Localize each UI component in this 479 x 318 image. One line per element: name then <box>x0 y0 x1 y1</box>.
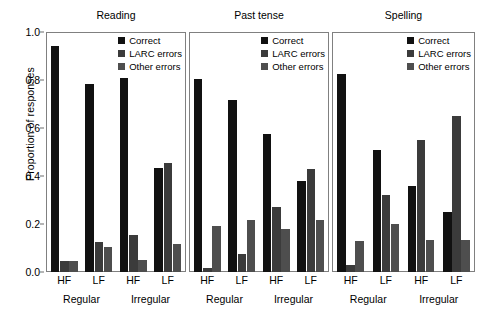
bar <box>95 242 104 272</box>
bar <box>120 78 129 272</box>
x-axis-tick-label: LF <box>162 274 174 286</box>
legend-swatch-icon <box>407 63 414 70</box>
legend-item: Correct <box>407 35 471 47</box>
legend-item: LARC errors <box>407 48 471 60</box>
legend-label: Other errors <box>418 61 469 73</box>
legend-swatch-icon <box>118 50 125 57</box>
bar <box>51 46 60 272</box>
bar <box>203 268 212 272</box>
bar <box>104 247 113 272</box>
x-axis-tick-label: HF <box>126 274 140 286</box>
x-axis-group-label: Irregular <box>419 293 458 305</box>
x-axis-tick-label: LF <box>305 274 317 286</box>
bar <box>408 186 417 272</box>
bar <box>129 235 138 272</box>
bar <box>346 265 355 272</box>
bar <box>212 226 221 272</box>
y-axis-tick-label: 0.4 <box>25 171 40 182</box>
bar <box>461 240 470 272</box>
bar <box>443 212 452 272</box>
x-axis-group-label: Regular <box>350 293 387 305</box>
legend-item: Correct <box>118 35 182 47</box>
bar <box>307 169 316 272</box>
x-axis-tick-label: LF <box>380 274 392 286</box>
bar <box>164 163 173 272</box>
legend: CorrectLARC errorsOther errors <box>407 35 471 74</box>
legend-item: Correct <box>261 35 325 47</box>
bar <box>238 254 247 272</box>
legend-label: LARC errors <box>129 48 182 60</box>
legend-item: Other errors <box>261 61 325 73</box>
x-axis-tick-label: LF <box>450 274 462 286</box>
bar <box>272 207 281 272</box>
bar <box>69 261 78 272</box>
legend-swatch-icon <box>261 50 268 57</box>
bar <box>173 244 182 272</box>
legend-label: Correct <box>129 35 160 47</box>
x-axis: HFLFHFLFRegularIrregular <box>46 274 186 318</box>
legend-label: Correct <box>272 35 303 47</box>
bar <box>138 260 147 272</box>
y-axis-tick-label: 0.6 <box>25 123 40 134</box>
legend-swatch-icon <box>118 63 125 70</box>
y-axis-tick-mark <box>40 32 44 33</box>
x-axis-tick-label: HF <box>269 274 283 286</box>
chart-panel: SpellingCorrectLARC errorsOther errors <box>332 32 475 272</box>
y-axis-tick-label: 0.8 <box>25 75 40 86</box>
x-axis-group-label: Irregular <box>131 293 170 305</box>
bar <box>281 229 290 272</box>
bar <box>355 241 364 272</box>
x-axis-tick-label: HF <box>57 274 71 286</box>
y-axis-tick-label: 0.2 <box>25 219 40 230</box>
bar <box>263 134 272 272</box>
x-axis-group-label: Irregular <box>274 293 313 305</box>
panel-title: Past tense <box>189 9 329 21</box>
bar <box>60 261 69 272</box>
legend-label: Other errors <box>129 61 180 73</box>
bar <box>426 240 435 272</box>
y-axis-tick-mark <box>40 224 44 225</box>
y-axis: 0.00.20.40.60.81.0 <box>0 0 46 318</box>
x-axis: HFLFHFLFRegularIrregular <box>189 274 329 318</box>
bar <box>247 220 256 272</box>
legend-item: Other errors <box>407 61 471 73</box>
legend-item: Other errors <box>118 61 182 73</box>
figure: Proportion of responses 0.00.20.40.60.81… <box>0 0 479 318</box>
legend-item: LARC errors <box>118 48 182 60</box>
legend-label: LARC errors <box>272 48 325 60</box>
legend-label: LARC errors <box>418 48 471 60</box>
y-axis-tick-mark <box>40 80 44 81</box>
bar <box>382 195 391 272</box>
legend-swatch-icon <box>261 63 268 70</box>
x-axis: HFLFHFLFRegularIrregular <box>332 274 475 318</box>
legend-item: LARC errors <box>261 48 325 60</box>
x-axis-group-label: Regular <box>63 293 100 305</box>
legend: CorrectLARC errorsOther errors <box>261 35 325 74</box>
legend-swatch-icon <box>407 37 414 44</box>
x-axis-group-label: Regular <box>206 293 243 305</box>
legend-swatch-icon <box>407 50 414 57</box>
legend-swatch-icon <box>118 37 125 44</box>
bar <box>452 116 461 272</box>
bar <box>337 74 346 272</box>
bar <box>154 168 163 272</box>
bar <box>297 181 306 272</box>
x-axis-tick-label: LF <box>236 274 248 286</box>
x-axis-tick-label: HF <box>344 274 358 286</box>
bar <box>194 79 203 272</box>
x-axis-tick-label: LF <box>93 274 105 286</box>
legend-label: Correct <box>418 35 449 47</box>
bar <box>373 150 382 272</box>
panel-title: Spelling <box>332 9 475 21</box>
y-axis-tick-mark <box>40 176 44 177</box>
bar <box>316 220 325 272</box>
bar <box>228 100 237 272</box>
x-axis-tick-label: HF <box>414 274 428 286</box>
chart-panel: ReadingCorrectLARC errorsOther errors <box>46 32 186 272</box>
panel-title: Reading <box>46 9 186 21</box>
y-axis-tick-label: 0.0 <box>25 267 40 278</box>
bar <box>417 140 426 272</box>
legend: CorrectLARC errorsOther errors <box>118 35 182 74</box>
y-axis-tick-mark <box>40 272 44 273</box>
chart-panel: Past tenseCorrectLARC errorsOther errors <box>189 32 329 272</box>
